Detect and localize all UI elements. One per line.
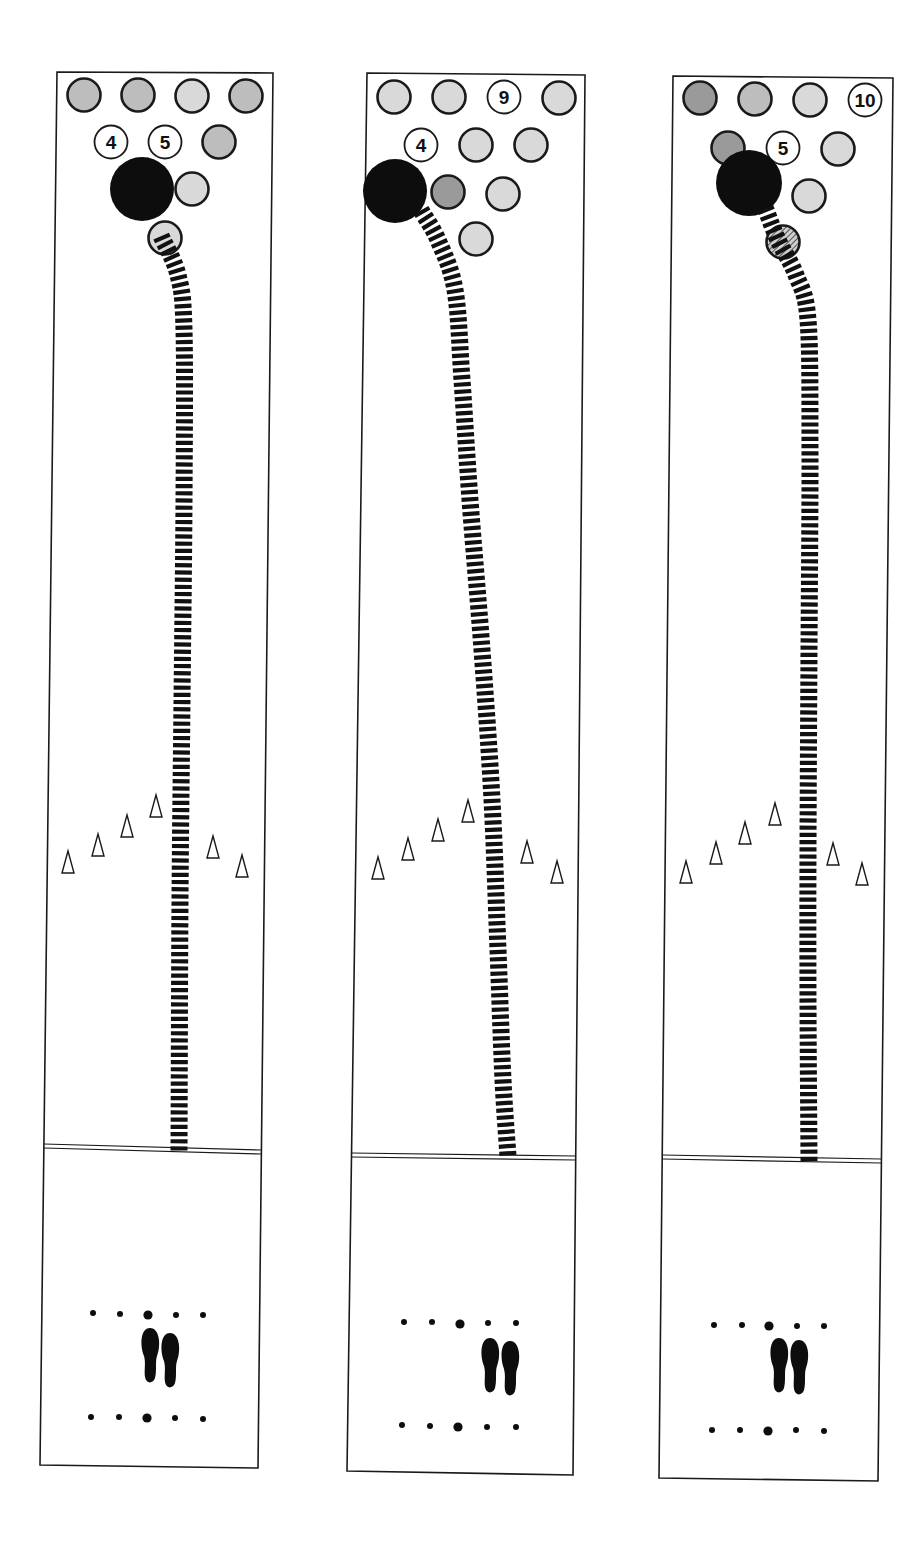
path-rung (495, 1095, 512, 1096)
path-rung (488, 901, 505, 902)
path-rung (175, 306, 192, 307)
path-rung (499, 1153, 516, 1154)
path-rung (484, 800, 501, 801)
path-rung (466, 556, 483, 557)
pin-number-label: 5 (160, 132, 171, 153)
pin-number-label: 4 (416, 135, 427, 156)
pin-circle (176, 80, 209, 113)
path-rung (486, 865, 503, 866)
path-rung (464, 527, 481, 528)
path-rung (452, 362, 469, 363)
path-rung (484, 808, 501, 809)
path-rung (173, 290, 190, 293)
pin-knocked-down (793, 180, 826, 213)
path-rung (472, 628, 489, 629)
pin-knocked-down (794, 84, 827, 117)
pin-knocked-down (176, 173, 209, 206)
pin-knocked-down (684, 82, 717, 115)
approach-dot-upper (513, 1320, 519, 1326)
path-rung (481, 757, 498, 758)
path-rung (477, 693, 494, 694)
path-rung (454, 384, 471, 385)
path-rung (468, 578, 485, 579)
path-rung (479, 728, 496, 729)
path-rung (456, 413, 473, 414)
path-rung (480, 736, 497, 737)
path-rung (497, 1117, 514, 1118)
path-rung (487, 894, 504, 895)
path-rung (493, 1038, 510, 1039)
approach-dot-lower (116, 1414, 122, 1420)
path-rung (467, 563, 484, 564)
path-rung (498, 1138, 515, 1139)
pin-knocked-down (122, 79, 155, 112)
path-rung (474, 657, 491, 658)
path-rung (175, 320, 192, 321)
pin-number-label: 9 (499, 87, 510, 108)
path-rung (450, 319, 467, 320)
path-rung (458, 449, 475, 450)
path-rung (468, 585, 485, 586)
path-rung (470, 599, 487, 600)
approach-dot-upper (711, 1322, 717, 1328)
path-rung (454, 391, 471, 392)
approach-dot-lower (763, 1426, 772, 1435)
path-rung (451, 334, 468, 335)
approach-dot-lower (709, 1427, 715, 1433)
lane-outline (40, 72, 273, 1468)
path-rung (486, 851, 503, 852)
path-rung (174, 298, 191, 300)
path-rung (175, 313, 192, 314)
path-rung (471, 621, 488, 622)
path-rung (477, 700, 494, 701)
path-rung (483, 786, 500, 787)
path-rung (487, 880, 504, 881)
approach-dot-upper (794, 1323, 800, 1329)
path-rung (496, 1110, 513, 1111)
pin-knocked-down (487, 178, 520, 211)
path-rung (490, 966, 507, 967)
path-rung (458, 456, 475, 457)
path-rung (496, 1103, 513, 1104)
approach-dot-lower (399, 1422, 405, 1428)
path-rung (484, 815, 501, 816)
path-rung (492, 1031, 509, 1032)
path-rung (456, 420, 473, 421)
path-rung (491, 1002, 508, 1003)
approach-dot-lower (142, 1413, 151, 1422)
path-rung (449, 312, 466, 313)
approach-dot-lower (88, 1414, 94, 1420)
path-rung (447, 290, 464, 293)
pin-circle (230, 80, 263, 113)
path-rung (495, 1088, 512, 1089)
path-rung (481, 764, 498, 765)
path-rung (482, 772, 499, 773)
path-rung (485, 822, 502, 823)
path-rung (801, 338, 818, 339)
pin-knocked-down (203, 126, 236, 159)
approach-dot-lower (200, 1416, 206, 1422)
path-rung (492, 1009, 509, 1010)
lane-diagram-1: 45 (40, 72, 273, 1468)
lane-outline (659, 76, 893, 1481)
path-rung (495, 1081, 512, 1082)
path-rung (461, 499, 478, 500)
path-rung (457, 427, 474, 428)
path-rung (491, 988, 508, 989)
path-rung (463, 520, 480, 521)
approach-dot-lower (427, 1423, 433, 1429)
approach-dot-upper (739, 1322, 745, 1328)
pin-knocked-down (432, 176, 465, 209)
path-rung (486, 858, 503, 859)
pin-knocked-down (68, 79, 101, 112)
path-rung (497, 1124, 514, 1125)
pin-circle (203, 126, 236, 159)
pin-circle (122, 79, 155, 112)
path-rung (452, 355, 469, 356)
approach-dot-lower (513, 1424, 519, 1430)
path-rung (476, 678, 493, 679)
path-rung (490, 959, 507, 960)
pin-standing: 5 (149, 126, 182, 159)
path-rung (494, 1060, 511, 1061)
path-rung (464, 535, 481, 536)
